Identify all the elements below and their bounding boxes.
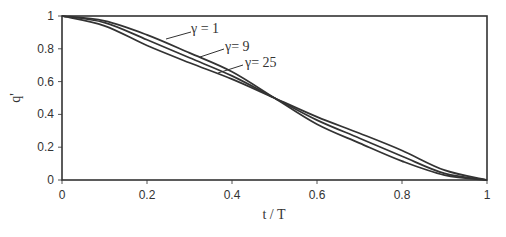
y-axis-title: q' — [8, 93, 23, 103]
annotation-label: γ= 9 — [224, 39, 250, 54]
x-tick-label: 0.8 — [394, 188, 411, 202]
x-tick-label: 0.6 — [309, 188, 326, 202]
x-tick-label: 0 — [59, 188, 66, 202]
x-tick-label: 0.4 — [224, 188, 241, 202]
y-tick-label: 0.6 — [37, 75, 54, 89]
annotation-label: γ = 1 — [190, 21, 219, 36]
plot-series — [62, 16, 487, 180]
legend-annotations: γ = 1γ= 9γ= 25 — [166, 21, 277, 73]
x-tick-label: 1 — [484, 188, 491, 202]
x-axis-title: t / T — [262, 207, 286, 222]
annotation-leader-line — [166, 32, 191, 39]
y-tick-label: 1 — [47, 9, 54, 23]
x-tick-label: 0.2 — [139, 188, 156, 202]
annotation-leader-line — [200, 49, 224, 57]
x-axis: 00.20.40.60.81 — [59, 180, 491, 202]
y-tick-label: 0.2 — [37, 140, 54, 154]
line-chart: 00.20.40.60.81 00.20.40.60.81 γ = 1γ= 9γ… — [0, 0, 506, 237]
y-tick-label: 0.8 — [37, 42, 54, 56]
series-line-2 — [62, 16, 487, 180]
y-tick-label: 0.4 — [37, 107, 54, 121]
annotation-label: γ= 25 — [244, 55, 277, 70]
y-tick-label: 0 — [47, 173, 54, 187]
y-axis: 00.20.40.60.81 — [37, 9, 62, 187]
